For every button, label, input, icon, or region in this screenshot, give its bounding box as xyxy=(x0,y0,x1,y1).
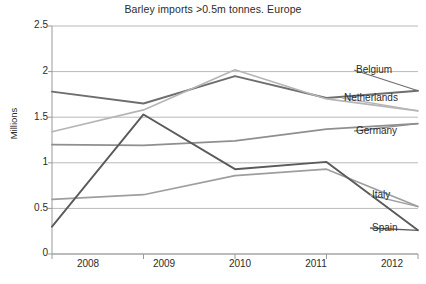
x-tick-label: 2012 xyxy=(368,258,416,269)
series-line-italy xyxy=(52,169,418,206)
series-label-italy: Italy xyxy=(372,189,390,200)
plot-area xyxy=(0,0,426,284)
x-tick-label: 2009 xyxy=(140,258,188,269)
y-tick-label: 0.5 xyxy=(14,202,48,213)
series-label-belgium: Belgium xyxy=(356,64,392,75)
x-tick-label: 2008 xyxy=(64,258,112,269)
x-tick-label: 2011 xyxy=(292,258,340,269)
axis-lines xyxy=(52,26,418,254)
y-tick-label: 1.5 xyxy=(14,111,48,122)
x-tick-label: 2010 xyxy=(216,258,264,269)
series-label-germany: Germany xyxy=(356,125,397,136)
line-chart: Barley imports >0.5m tonnes. Europe Mill… xyxy=(0,0,426,284)
y-tick-label: 2 xyxy=(14,65,48,76)
y-tick-label: 2.5 xyxy=(14,19,48,30)
y-axis-tick-labels: 2.5 2 1.5 1 0.5 0 xyxy=(12,0,48,284)
axis-tick-marks xyxy=(48,26,418,259)
series-label-spain: Spain xyxy=(372,222,398,233)
series-label-netherlands: Netherlands xyxy=(344,92,398,103)
chart-title: Barley imports >0.5m tonnes. Europe xyxy=(0,3,426,15)
gridlines xyxy=(52,26,418,254)
y-tick-label: 1 xyxy=(14,156,48,167)
y-tick-label: 0 xyxy=(14,247,48,258)
